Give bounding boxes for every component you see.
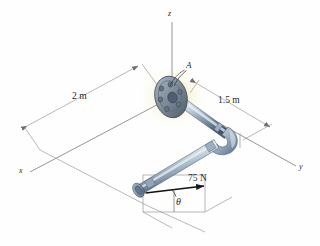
pipe-segment-lower (137, 140, 220, 195)
axis-y-label: y (299, 163, 303, 171)
angle-label-theta: θ (176, 197, 181, 207)
flange-bolt (178, 89, 183, 94)
force-plane-diag (143, 212, 172, 228)
ground-line-bottom (148, 206, 205, 232)
point-label-A: A (186, 61, 192, 70)
force-label-75n: 75 N (188, 174, 207, 184)
dim-2m-ext-left (25, 128, 40, 150)
axis-z-label: z (168, 10, 171, 18)
dimension-label-1p5m: 1.5 m (218, 96, 240, 106)
diagram-svg (0, 0, 320, 246)
dimension-label-2m: 2 m (72, 92, 87, 102)
ground-line-left (40, 150, 148, 206)
force-plane-diag2 (205, 197, 232, 212)
axis-x-line (30, 98, 170, 172)
dim-1p5m-ext-bottom (243, 124, 272, 140)
flange-bolt (165, 106, 170, 111)
flange-bolt (159, 86, 164, 91)
figure-canvas: z y x A 2 m 1.5 m 75 N θ (0, 0, 320, 246)
axis-x-label: x (19, 167, 23, 175)
flange-bolt (158, 97, 163, 102)
flange-bolt (176, 102, 181, 107)
